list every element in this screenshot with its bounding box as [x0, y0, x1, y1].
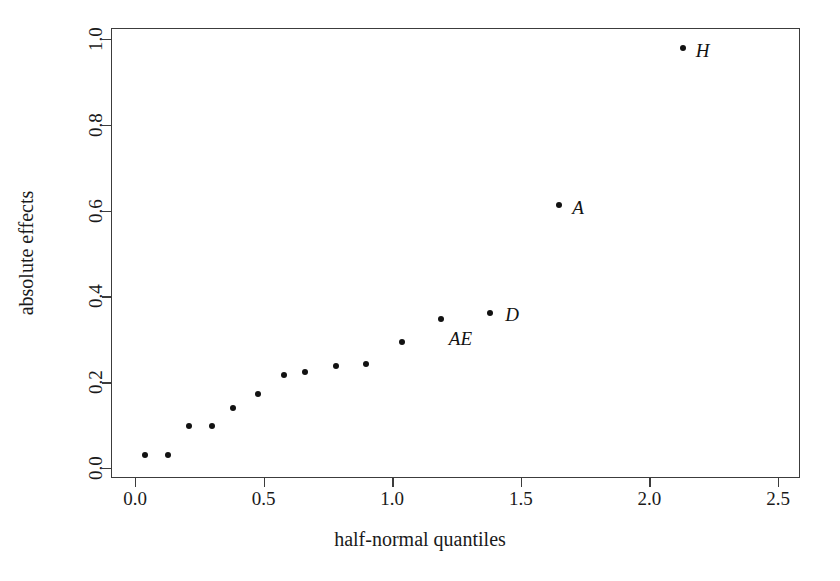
half-normal-plot-figure: 0.00.51.01.52.02.5 0.00.20.40.60.81.0 AE…	[0, 0, 840, 581]
y-axis-tick-label: 0.4	[86, 296, 107, 320]
x-axis-tick	[135, 478, 136, 487]
point-label-d: D	[505, 305, 519, 324]
data-point	[209, 423, 215, 429]
point-label-h: H	[696, 41, 710, 60]
x-axis-tick-label: 2.0	[619, 489, 679, 510]
x-axis-tick-label: 2.5	[748, 489, 808, 510]
x-axis-tick-label: 1.0	[362, 489, 422, 510]
y-axis-tick-label: 0.0	[86, 468, 107, 492]
x-axis-tick-label: 0.0	[105, 489, 165, 510]
y-axis-tick-label: 1.0	[86, 39, 107, 63]
plot-area	[111, 28, 800, 478]
data-point	[680, 45, 686, 51]
point-label-a: A	[572, 198, 584, 217]
x-axis-tick	[649, 478, 650, 487]
y-axis-tick-label: 0.8	[86, 125, 107, 149]
x-axis-tick	[392, 478, 393, 487]
data-point	[302, 369, 308, 375]
x-axis-label: half-normal quantiles	[0, 528, 840, 551]
data-point	[333, 363, 339, 369]
x-axis-tick	[521, 478, 522, 487]
y-axis-tick-label: 0.6	[86, 211, 107, 235]
data-point	[487, 310, 493, 316]
x-axis-tick-label: 0.5	[234, 489, 294, 510]
x-axis-tick-label: 1.5	[491, 489, 551, 510]
data-point	[186, 423, 192, 429]
x-axis-tick	[778, 478, 779, 487]
y-axis-tick-label: 0.2	[86, 382, 107, 406]
x-axis-tick	[264, 478, 265, 487]
point-label-ae: AE	[449, 329, 472, 348]
y-axis-label: absolute effects	[15, 191, 38, 316]
